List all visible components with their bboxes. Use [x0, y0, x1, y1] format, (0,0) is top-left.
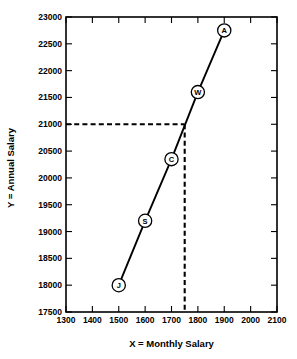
- data-point-marker[interactable]: J: [112, 279, 125, 292]
- x-tick-label: 2000: [241, 315, 260, 325]
- y-tick-label: 20500: [38, 146, 62, 156]
- scatter-line-plot: 17500 18000 18500 19000 19500 20000 2050…: [0, 0, 297, 359]
- y-tick-label: 18000: [38, 280, 62, 290]
- y-tick-label: 20000: [38, 173, 62, 183]
- x-axis-title: X = Monthly Salary: [129, 338, 214, 349]
- data-point-marker[interactable]: W: [191, 85, 204, 98]
- data-point-marker[interactable]: A: [218, 24, 231, 37]
- marker-label: A: [222, 26, 228, 35]
- cropped-title-remnant: [150, 0, 297, 10]
- x-tick-label: 1700: [162, 315, 181, 325]
- x-tick-label: 1500: [109, 315, 128, 325]
- y-tick-label: 18500: [38, 253, 62, 263]
- y-tick-labels: 17500 18000 18500 19000 19500 20000 2050…: [38, 12, 62, 317]
- x-tick-label: 1300: [57, 315, 76, 325]
- y-axis-title: Y = Annual Salary: [5, 127, 16, 208]
- marker-label: C: [169, 155, 175, 164]
- x-tick-label: 1900: [215, 315, 234, 325]
- y-tick-label: 21000: [38, 119, 62, 129]
- x-tick-label: 1800: [188, 315, 207, 325]
- x-tick-label: 1600: [136, 315, 155, 325]
- y-tick-label: 21500: [38, 92, 62, 102]
- x-tick-labels: 1300 1400 1500 1600 1700 1800 1900 2000 …: [57, 315, 287, 325]
- data-point-marker[interactable]: C: [165, 153, 178, 166]
- marker-label: S: [143, 217, 148, 226]
- data-point-marker[interactable]: S: [139, 214, 152, 227]
- y-tick-label: 22000: [38, 66, 62, 76]
- y-tick-label: 19500: [38, 200, 62, 210]
- marker-label: J: [117, 281, 121, 290]
- chart-figure: 17500 18000 18500 19000 19500 20000 2050…: [0, 0, 297, 359]
- y-tick-label: 19000: [38, 227, 62, 237]
- y-tick-label: 23000: [38, 12, 62, 22]
- marker-label: W: [194, 88, 202, 97]
- x-tick-label: 2100: [268, 315, 287, 325]
- x-tick-label: 1400: [83, 315, 102, 325]
- y-tick-label: 22500: [38, 39, 62, 49]
